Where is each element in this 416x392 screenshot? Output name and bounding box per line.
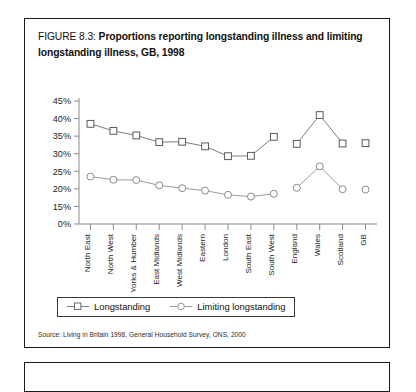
y-axis-tick-label: 0% [58,219,71,229]
series-line [297,115,343,144]
data-point-marker [156,139,163,146]
x-axis-tick-label: South West [267,233,276,275]
y-axis-tick-label: 15% [53,202,71,212]
chart-series-group [87,112,369,200]
data-point-marker [225,153,232,160]
data-point-marker [248,152,255,159]
y-axis-tick-label: 40% [53,114,71,124]
figure-source-note: Source: Living in Britain 1998, General … [38,331,246,338]
x-axis-tick-label: London [221,234,230,261]
data-point-marker [339,186,346,193]
chart-svg: 45%40%35%30%25%20%15%0% North EastNorth … [25,71,391,311]
data-point-marker [339,140,346,147]
secondary-panel [24,362,390,392]
y-axis-tick-label: 25% [53,167,71,177]
y-axis: 45%40%35%30%25%20%15%0% [53,96,79,229]
data-point-marker [316,163,323,170]
x-axis-tick-label: Yorks & Humber [129,234,138,293]
x-axis-tick-label: Eastern [198,234,207,262]
x-axis-tick-labels: North EastNorth WestYorks & HumberEast M… [83,233,367,292]
figure-panel: FIGURE 8.3: Proportions reporting longst… [24,18,390,348]
data-point-marker [247,193,254,200]
figure-caption: FIGURE 8.3: Proportions reporting longst… [38,29,368,60]
legend-entry-longstanding: Longstanding [67,301,150,312]
chart-series [87,112,369,160]
data-point-marker [202,143,209,150]
circle-open-marker-icon [170,302,192,311]
data-point-marker [293,140,300,147]
legend-label-longstanding: Longstanding [94,301,150,312]
x-axis-tick-label: West Midlands [175,234,184,287]
y-axis-tick-label: 45% [53,96,71,106]
chart-plot-area: 45%40%35%30%25%20%15%0% North EastNorth … [25,71,391,311]
x-axis [79,224,377,230]
data-point-marker [202,187,209,194]
chart-series [87,163,369,200]
data-point-marker [87,120,94,127]
x-axis-tick-label: England [290,234,299,264]
data-point-marker [270,190,277,197]
legend-label-limiting-longstanding: Limiting longstanding [197,301,285,312]
data-point-marker [293,184,300,191]
data-point-marker [87,173,94,180]
x-axis-tick-label: Wales [313,234,322,256]
y-axis-tick-label: 35% [53,131,71,141]
data-point-marker [362,186,369,193]
x-axis-tick-label: North West [106,233,115,274]
x-axis-tick-label: North East [83,233,92,272]
square-open-marker-icon [67,302,89,311]
x-axis-tick-label: GB [359,234,368,246]
data-point-marker [110,127,117,134]
y-axis-tick-label: 30% [53,149,71,159]
data-point-marker [133,132,140,139]
data-point-marker [316,112,323,119]
figure-number-label: FIGURE 8.3: [38,31,96,42]
data-point-marker [362,140,369,147]
legend-entry-limiting-longstanding: Limiting longstanding [170,301,285,312]
y-axis-tick-label: 20% [53,184,71,194]
data-point-marker [225,191,232,198]
x-axis-tick-label: East Midlands [152,234,161,285]
data-point-marker [110,176,117,183]
chart-legend: Longstanding Limiting longstanding [57,297,295,317]
data-point-marker [156,182,163,189]
x-axis-tick-label: Scotland [336,234,345,266]
data-point-marker [133,177,140,184]
data-point-marker [179,138,186,145]
x-axis-tick-label: South East [244,233,253,273]
data-point-marker [270,133,277,140]
data-point-marker [179,185,186,192]
